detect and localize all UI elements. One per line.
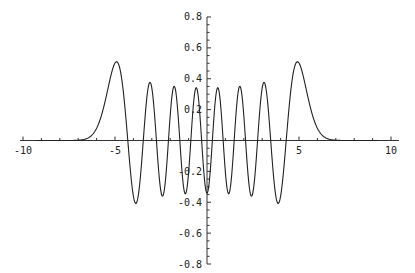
x-tick-label: 10 [385,145,397,156]
y-tick-label: -0.8 [178,259,202,270]
y-tick-label: -0.4 [178,197,202,208]
x-tick-label: -10 [14,145,32,156]
x-axis: -10-5510 [14,137,399,156]
x-tick-label: -5 [109,145,121,156]
function-plot: -10-5510 -0.8-0.6-0.4-0.20.20.40.60.8 [0,0,415,273]
y-tick-label: 0.6 [184,42,202,53]
y-tick-label: -0.6 [178,228,202,239]
x-tick-label: 5 [296,145,302,156]
y-tick-label: 0.8 [184,11,202,22]
y-tick-label: 0.4 [184,73,202,84]
